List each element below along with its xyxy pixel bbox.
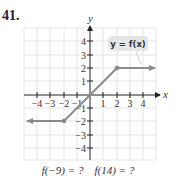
y-tick-label: 2	[81, 63, 86, 74]
endpoint-dot	[115, 66, 120, 71]
x-tick-label: 3	[128, 98, 133, 109]
question-part-2: f(14) = ?	[94, 164, 134, 176]
x-tick-label: 2	[115, 98, 120, 109]
y-tick-label: 3	[81, 50, 86, 61]
y-tick-label: 1	[81, 76, 86, 87]
function-graph: −4 −3 −2 −1 1 2 3 4 4 3 2 1 −1 −2 −3 −4 …	[0, 0, 176, 162]
x-tick-label: 4	[141, 98, 146, 109]
x-tick-label: −4	[32, 98, 43, 109]
question-caption: f(−9) = ? f(14) = ?	[0, 164, 176, 176]
y-tick-label: 4	[81, 36, 86, 47]
x-tick-label: −3	[45, 98, 56, 109]
question-part-1: f(−9) = ?	[42, 164, 84, 176]
x-tick-label: 1	[101, 98, 106, 109]
y-tick-label: −3	[75, 130, 86, 141]
endpoint-dot	[62, 119, 67, 124]
function-label-callout: y = f(x)	[108, 36, 148, 64]
y-tick-label: −4	[75, 143, 86, 154]
y-tick-label: −2	[75, 116, 86, 127]
y-axis-label: y	[87, 12, 93, 24]
function-label: y = f(x)	[110, 39, 146, 49]
x-axis-label: x	[162, 88, 168, 100]
x-tick-label: −2	[59, 98, 70, 109]
